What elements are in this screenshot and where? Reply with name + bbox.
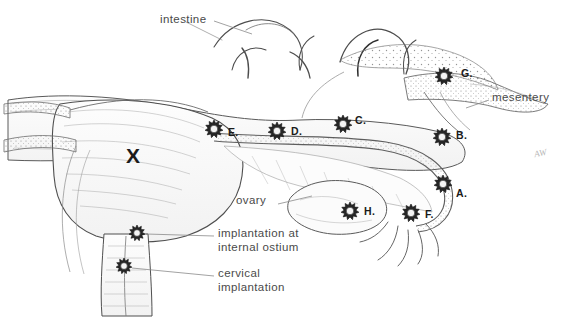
implantation-star-C: [334, 115, 352, 133]
illustration-canvas: [0, 0, 572, 333]
label-ovary: ovary: [236, 194, 266, 206]
implantation-star-A: [434, 175, 452, 193]
label-cervical-implantation: cervical implantation: [218, 266, 285, 294]
marker-label-D: D.: [291, 125, 302, 137]
label-mesentery: mesentery: [492, 91, 549, 103]
marker-label-A: A.: [456, 187, 467, 199]
label-internal-ostium: implantation at internal ostium: [218, 226, 299, 254]
marker-label-B: B.: [456, 129, 467, 141]
marker-label-F: F.: [425, 208, 434, 220]
marker-label-H: H.: [364, 205, 375, 217]
marker-label-C: C.: [355, 114, 366, 126]
marker-label-G: G.: [461, 67, 473, 79]
cervix: [101, 234, 152, 316]
anatomical-figure: X intestine mesentery ovary implantation…: [0, 0, 572, 333]
label-intestine: intestine: [160, 13, 206, 25]
marker-label-E: E.: [228, 126, 239, 138]
uterus-x-marker: X: [126, 144, 140, 168]
mesentery-fold: [404, 73, 548, 134]
